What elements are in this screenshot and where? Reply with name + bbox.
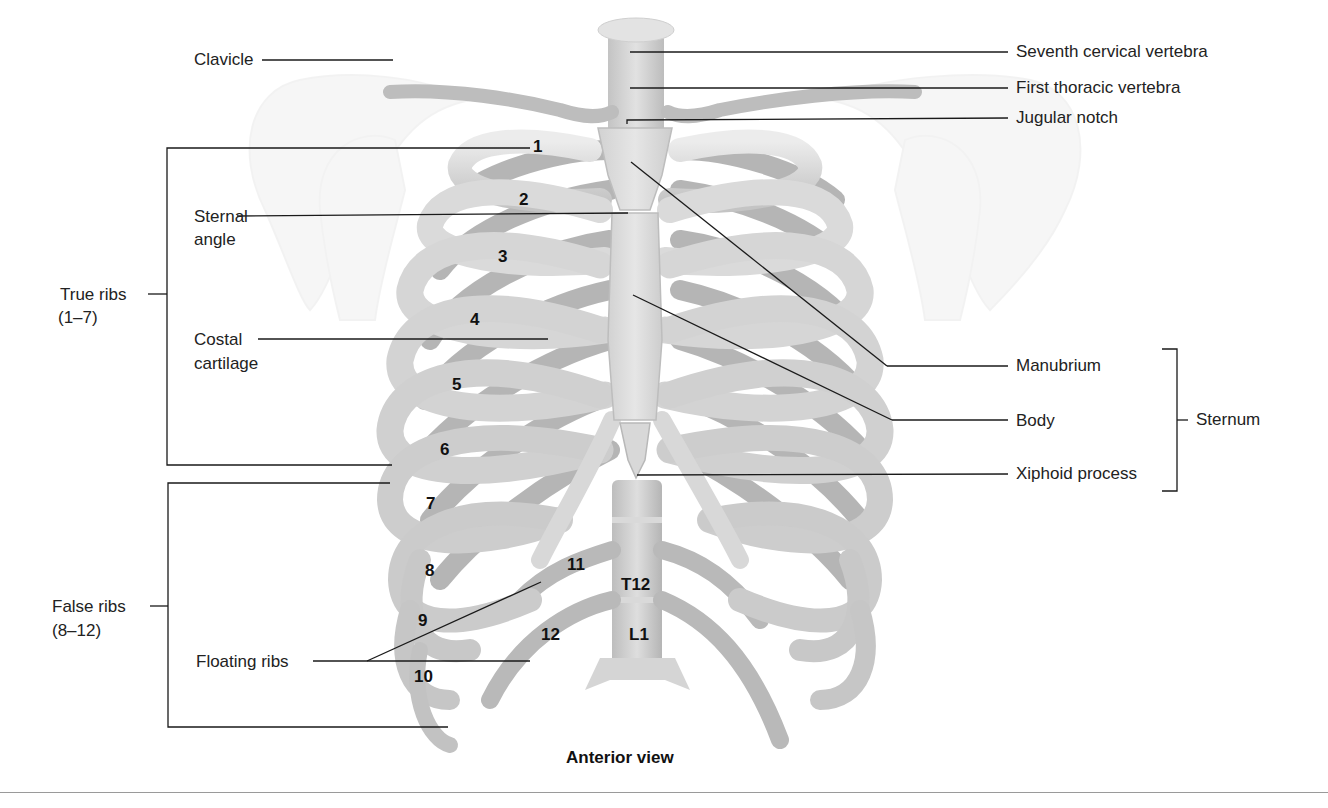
xiphoid-shape: [620, 423, 650, 478]
label-manubrium: Manubrium: [1016, 355, 1101, 377]
rib-number-9: 9: [418, 611, 427, 631]
rib-number-2: 2: [519, 190, 528, 210]
figure-caption: Anterior view: [566, 748, 674, 768]
label-true-ribs-1: True ribs: [60, 284, 126, 306]
vertebra-label-l1: L1: [629, 625, 649, 645]
label-jugular-notch: Jugular notch: [1016, 107, 1118, 129]
rib-number-11: 11: [567, 555, 585, 575]
sternum-bracket: [1162, 349, 1177, 491]
rib-number-1: 1: [533, 137, 542, 157]
label-costal-cartilage-2: cartilage: [194, 353, 258, 375]
rib-number-8: 8: [425, 561, 434, 581]
label-sternum: Sternum: [1196, 409, 1260, 431]
label-false-ribs-2: (8–12): [52, 620, 101, 642]
rib-number-6: 6: [440, 440, 449, 460]
bottom-divider: [0, 792, 1328, 793]
label-xiphoid-process: Xiphoid process: [1016, 463, 1137, 485]
thoracic-cage-figure: Seventh cervical vertebra First thoracic…: [0, 0, 1328, 808]
rib-cage-illustration: [0, 0, 1328, 808]
rib-number-7: 7: [426, 494, 435, 514]
label-sternal-angle-1: Sternal: [194, 206, 248, 228]
label-sternal-angle-2: angle: [194, 229, 236, 251]
label-clavicle: Clavicle: [194, 49, 254, 71]
label-body: Body: [1016, 410, 1055, 432]
rib-number-3: 3: [498, 247, 507, 267]
label-costal-cartilage-1: Costal: [194, 329, 242, 351]
vertebra-label-t12: T12: [621, 575, 650, 595]
rib-number-10: 10: [414, 667, 433, 687]
label-first-thoracic-vertebra: First thoracic vertebra: [1016, 77, 1180, 99]
rib-number-5: 5: [452, 375, 461, 395]
label-seventh-cervical-vertebra: Seventh cervical vertebra: [1016, 41, 1208, 63]
sternal-body-shape: [608, 213, 662, 420]
rib-number-12: 12: [541, 625, 560, 645]
label-floating-ribs: Floating ribs: [196, 651, 289, 673]
label-false-ribs-1: False ribs: [52, 596, 126, 618]
label-true-ribs-2: (1–7): [58, 307, 98, 329]
rib-number-4: 4: [470, 310, 479, 330]
